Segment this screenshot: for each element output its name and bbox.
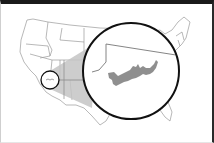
us-locator-map bbox=[0, 0, 214, 143]
